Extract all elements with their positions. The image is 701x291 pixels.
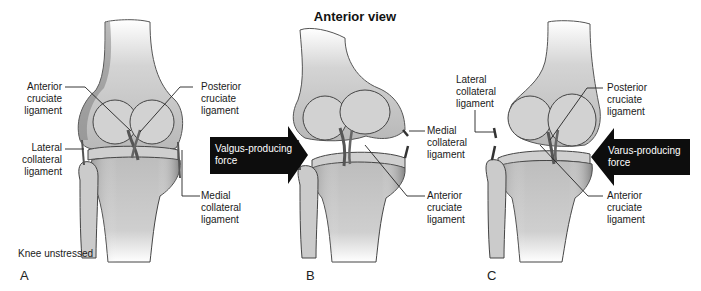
label-a-posterior-cruciate-ligament: Posterior cruciate ligament	[201, 81, 241, 117]
panel-letter-c: C	[487, 268, 496, 283]
panel-c-knee	[486, 21, 600, 262]
label-c-lateral-collateral-ligament: Lateral collateral ligament	[456, 74, 496, 110]
label-c-anterior-cruciate-ligament: Anterior cruciate ligament	[607, 190, 645, 226]
diagram-title: Anterior view	[300, 9, 410, 24]
panel-letter-a: A	[20, 268, 29, 283]
panel-a-knee	[78, 20, 182, 262]
varus-force-label: Varus-producing force	[608, 145, 681, 169]
fibula-a	[79, 162, 98, 258]
label-b-medial-collateral-ligament: Medial collateral ligament	[427, 125, 467, 161]
label-c-posterior-cruciate-ligament: Posterior cruciate ligament	[607, 82, 647, 118]
label-a-lateral-collateral-ligament: Lateral collateral ligament	[4, 142, 62, 178]
knee-illustrations	[0, 0, 701, 291]
panel-b-knee	[293, 28, 408, 262]
label-a-anterior-cruciate-ligament: Anterior cruciate ligament	[14, 81, 62, 117]
valgus-force-label: Valgus-producing force	[215, 143, 292, 167]
fibula-c	[486, 160, 506, 258]
panel-letter-b: B	[306, 268, 315, 283]
label-b-anterior-cruciate-ligament: Anterior cruciate ligament	[427, 190, 465, 226]
label-a-medial-collateral-ligament: Medial collateral ligament	[201, 190, 241, 226]
knee-ligament-diagram: Anterior view Anterior cruciate ligament…	[0, 0, 701, 291]
leader-c-lcl	[475, 110, 494, 132]
caption-knee-unstressed: Knee unstressed	[18, 248, 93, 259]
fibula-b	[298, 166, 318, 258]
leader-a-mcl	[182, 150, 200, 196]
